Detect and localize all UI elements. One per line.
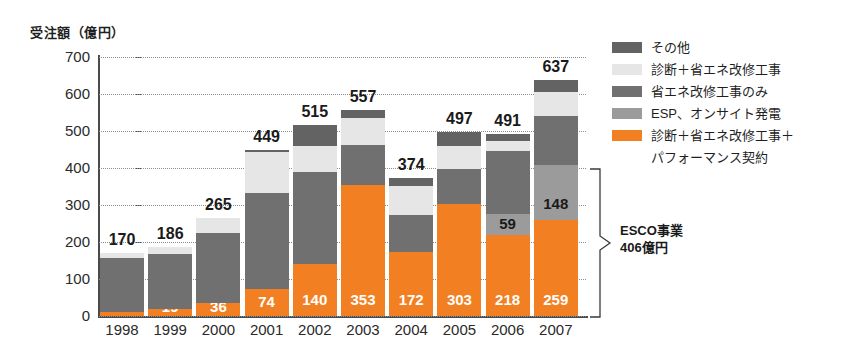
x-axis-tick-label: 2007 (526, 321, 586, 338)
y-axis-tick-label: 700 (44, 48, 90, 65)
gridline (99, 57, 586, 58)
bar-segment[interactable] (437, 169, 481, 203)
bar-segment[interactable]: 218 (486, 235, 530, 316)
chart-root: 受注額（億円） 0100200300400500600700 101701918… (0, 0, 843, 359)
bar[interactable]: 303 (437, 132, 481, 316)
bar-segment[interactable] (293, 172, 337, 265)
y-axis-tick-label: 100 (44, 270, 90, 287)
bar[interactable]: 140 (293, 125, 337, 316)
bar-segment[interactable]: 19 (148, 309, 192, 316)
plot-area: 1017019186362657444914051535355717237430… (99, 57, 586, 316)
bar-segment[interactable] (389, 178, 433, 186)
bar-segment[interactable]: 172 (389, 252, 433, 316)
esco-bracket-icon (588, 168, 614, 318)
legend-item[interactable]: 診断＋省エネ改修工事 (612, 60, 842, 79)
bar-total-value: 374 (381, 156, 441, 174)
bar-segment[interactable] (534, 80, 578, 92)
bar-segment-value: 353 (341, 292, 385, 307)
bar-segment-value: 259 (534, 292, 578, 307)
legend-swatch-icon (612, 64, 642, 75)
y-axis-title: 受注額（億円） (30, 22, 125, 41)
bar-segment[interactable] (534, 92, 578, 116)
legend-item[interactable]: ESP、オンサイト発電 (612, 104, 842, 123)
bar[interactable]: 353 (341, 110, 385, 316)
bar-segment[interactable] (100, 258, 144, 313)
bar-total-value: 265 (188, 196, 248, 214)
bar[interactable]: 21859 (486, 134, 530, 316)
bar-segment[interactable] (100, 253, 144, 257)
bar-segment[interactable] (534, 116, 578, 165)
esco-annotation-line1: ESCO事業 (620, 222, 683, 239)
y-axis-tick-label: 300 (44, 196, 90, 213)
bar[interactable]: 10 (100, 253, 144, 316)
bar-segment[interactable] (486, 134, 530, 140)
bar-segment[interactable] (245, 193, 289, 288)
legend-swatch-icon (612, 86, 642, 97)
legend-item[interactable]: 省エネ改修工事のみ (612, 82, 842, 101)
bar-segment[interactable] (389, 186, 433, 216)
bar-segment[interactable] (293, 125, 337, 145)
bar[interactable]: 36 (196, 218, 240, 316)
legend-item[interactable]: 診断＋省エネ改修工事＋ (612, 126, 842, 145)
bar-segment[interactable] (389, 215, 433, 252)
y-axis-tick-label: 400 (44, 159, 90, 176)
legend-item[interactable]: その他 (612, 38, 842, 57)
bar-segment[interactable] (341, 110, 385, 119)
legend-swatch-icon (612, 130, 642, 141)
legend-item-label: その他 (651, 38, 690, 57)
bar-segment[interactable]: 59 (486, 214, 530, 236)
bar-segment[interactable]: 140 (293, 264, 337, 316)
bar-segment[interactable]: 36 (196, 303, 240, 316)
legend-item-label-line2: パフォーマンス契約 (651, 148, 842, 167)
y-axis-tick-label: 600 (44, 85, 90, 102)
bar-total-value: 186 (140, 225, 200, 243)
bar-segment[interactable]: 303 (437, 204, 481, 316)
chart-legend: その他診断＋省エネ改修工事省エネ改修工事のみESP、オンサイト発電診断＋省エネ改… (612, 38, 842, 167)
bar-total-value: 515 (285, 103, 345, 121)
bar-segment[interactable] (437, 132, 481, 146)
bar-segment-value: 218 (486, 292, 530, 307)
bar-segment[interactable] (196, 218, 240, 233)
bar-segment-value: 59 (486, 216, 530, 231)
bar[interactable]: 74 (245, 150, 289, 316)
bar-segment[interactable]: 74 (245, 289, 289, 316)
bar-segment[interactable] (196, 233, 240, 303)
legend-item-label: 診断＋省エネ改修工事 (651, 60, 781, 79)
bar-segment[interactable] (245, 152, 289, 193)
bar-segment[interactable] (486, 141, 530, 151)
bar-total-value: 637 (526, 58, 586, 76)
bar-segment[interactable]: 353 (341, 185, 385, 316)
legend-swatch-icon (612, 42, 642, 53)
bar[interactable]: 19 (148, 247, 192, 316)
bar-segment[interactable] (245, 150, 289, 153)
bar-total-value: 557 (333, 88, 393, 106)
bar-total-value: 491 (478, 112, 538, 130)
bar-segment[interactable]: 148 (534, 165, 578, 220)
bar-segment[interactable]: 259 (534, 220, 578, 316)
bar-segment-value: 148 (534, 196, 578, 211)
gridline (99, 316, 586, 317)
y-axis-tick-label: 500 (44, 122, 90, 139)
bar-segment-value: 303 (437, 292, 481, 307)
bar-segment[interactable] (437, 146, 481, 170)
bar-segment-value: 172 (389, 292, 433, 307)
esco-annotation-line2: 406億円 (620, 239, 683, 256)
bar[interactable]: 172 (389, 178, 433, 316)
legend-item-label: ESP、オンサイト発電 (651, 104, 781, 123)
bar[interactable]: 259148 (534, 80, 578, 316)
bar-segment[interactable] (293, 146, 337, 172)
bar-segment[interactable] (486, 151, 530, 214)
esco-annotation: ESCO事業 406億円 (620, 222, 683, 256)
bar-segment[interactable] (341, 118, 385, 144)
bar-segment[interactable] (148, 254, 192, 309)
y-axis-ticks: 0100200300400500600700 (44, 57, 90, 316)
bar-segment[interactable]: 10 (100, 312, 144, 316)
bar-segment-value: 74 (245, 294, 289, 309)
bar-total-value: 449 (237, 128, 297, 146)
legend-item-label: 省エネ改修工事のみ (651, 82, 768, 101)
legend-swatch-icon (612, 108, 642, 119)
y-axis-tick-label: 200 (44, 233, 90, 250)
bar-segment[interactable] (341, 145, 385, 186)
bar-segment-value: 140 (293, 292, 337, 307)
bar-segment[interactable] (148, 247, 192, 254)
